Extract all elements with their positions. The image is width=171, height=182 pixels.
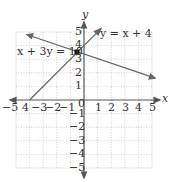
label-line1: y = x + 4 [99, 27, 152, 40]
svg-text:−5: −5 [69, 161, 85, 174]
svg-text:3: 3 [122, 101, 129, 114]
svg-text:5: 5 [149, 101, 156, 114]
x-axis-label: x [162, 92, 169, 105]
svg-text:−5: −5 [2, 101, 18, 114]
svg-text:2: 2 [108, 101, 115, 114]
label-line2: x + 3y = 10 [17, 45, 83, 58]
svg-text:−1: −1 [69, 107, 85, 120]
svg-text:4: 4 [22, 101, 29, 114]
svg-text:2: 2 [75, 66, 82, 79]
svg-text:1: 1 [75, 79, 82, 92]
svg-text:−4: −4 [69, 147, 85, 160]
svg-text:5: 5 [75, 25, 82, 38]
svg-text:4: 4 [135, 101, 142, 114]
y-axis-label: y [81, 8, 89, 21]
svg-text:1: 1 [95, 101, 102, 114]
svg-text:−3: −3 [69, 134, 85, 147]
coordinate-plane: x y −5 4 −3 −2 −1 0 1 2 3 4 5 5 4 3 2 1 … [0, 0, 171, 182]
svg-text:−2: −2 [69, 120, 85, 133]
